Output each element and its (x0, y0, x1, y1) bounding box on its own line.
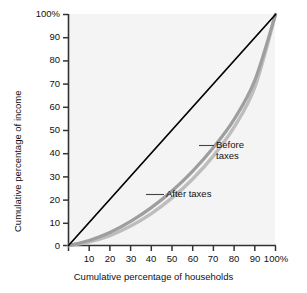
x-axis-ticks (69, 246, 276, 251)
y-tick-label-80: 80 (10, 55, 60, 65)
annotation-before-taxes: Before taxes (216, 140, 244, 161)
x-axis-title: Cumulative percentage of households (0, 272, 307, 282)
annotation-after-taxes: After taxes (166, 189, 211, 200)
y-axis-title: Cumulative percentage of income (13, 90, 23, 232)
y-axis-ticks (63, 15, 68, 246)
y-tick-label-100: 100% (10, 9, 60, 19)
y-tick-label-0: 0 (10, 241, 60, 251)
y-tick-label-90: 90 (10, 32, 60, 42)
x-tick-label-100: 100% (259, 254, 293, 264)
lorenz-curve-chart: 100% 90 80 70 60 50 40 30 20 10 0 10 20 … (0, 0, 307, 293)
y-tick-label-70: 70 (10, 79, 60, 89)
